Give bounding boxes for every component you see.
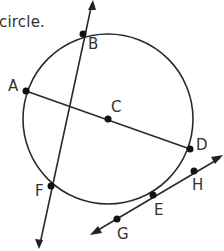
point-H <box>191 168 198 175</box>
point-B <box>80 31 87 38</box>
label-D: D <box>196 136 208 154</box>
arrowhead-down <box>35 239 43 249</box>
point-D <box>187 146 194 153</box>
label-A: A <box>8 77 19 95</box>
label-H: H <box>192 176 203 194</box>
point-F <box>48 183 55 190</box>
point-A <box>23 88 30 95</box>
secant-line-BF <box>40 3 92 244</box>
point-G <box>114 216 121 223</box>
point-C <box>105 116 112 123</box>
label-E: E <box>154 201 163 219</box>
point-E <box>150 192 157 199</box>
arrowhead-left <box>90 226 102 235</box>
tangent-line-GH <box>93 158 220 233</box>
label-G: G <box>117 225 129 243</box>
arrowhead-up <box>88 0 96 10</box>
label-C: C <box>111 98 121 116</box>
label-B: B <box>88 35 98 53</box>
circle-diagram: A B C D E F G H <box>0 0 224 251</box>
label-F: F <box>35 182 44 200</box>
